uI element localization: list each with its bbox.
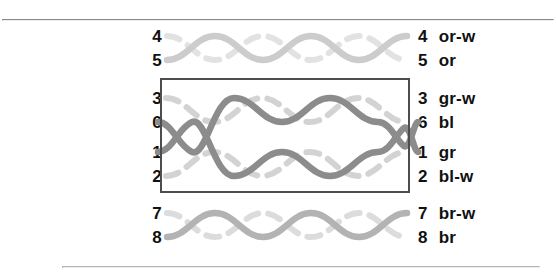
wire-orange-pair	[167, 36, 407, 60]
diagram-canvas: 4 5 3 6 1 2 7 8 4or-w 5or 3gr-w 6bl 1gr …	[0, 0, 556, 274]
split-pair-highlight-box	[160, 78, 410, 193]
wire-brown-pair	[167, 213, 407, 237]
